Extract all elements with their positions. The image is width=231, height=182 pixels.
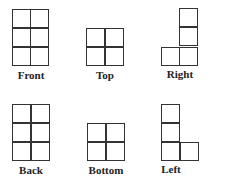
square-cell [31,104,50,123]
view-label-left: Left [141,163,201,175]
square-cell [106,142,125,161]
square-cell [105,47,124,66]
square-cell [105,28,124,47]
square-cell [31,142,50,161]
square-cell [12,142,31,161]
square-cell [12,28,31,47]
square-cell [161,142,180,161]
square-cell [30,9,49,28]
square-cell [179,8,198,27]
square-cell [180,142,199,161]
view-label-back: Back [1,164,61,176]
square-cell [106,123,125,142]
view-label-top: Top [75,69,135,81]
square-cell [86,47,105,66]
view-label-right: Right [150,68,210,80]
square-cell [161,47,180,66]
square-cell [86,28,105,47]
square-cell [12,9,31,28]
square-cell [12,123,31,142]
square-cell [30,47,49,66]
square-cell [161,104,180,123]
square-cell [31,123,50,142]
square-cell [179,27,198,46]
square-cell [179,47,198,66]
square-cell [161,123,180,142]
square-cell [87,123,106,142]
view-label-front: Front [1,69,61,81]
square-cell [87,142,106,161]
square-cell [12,104,31,123]
square-cell [12,47,31,66]
square-cell [30,28,49,47]
view-label-bottom: Bottom [76,164,136,176]
